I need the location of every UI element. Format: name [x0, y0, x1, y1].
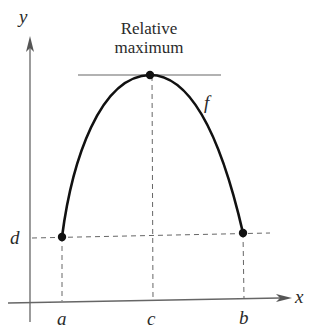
x-axis-label: x: [295, 287, 303, 306]
y-tick-d: d: [10, 228, 20, 247]
point-b-d: [239, 229, 247, 237]
y-axis: [26, 36, 34, 322]
dashed-guides: [32, 76, 270, 301]
x-tick-b: b: [239, 308, 249, 327]
y-axis-label: y: [19, 7, 27, 26]
caption-line-2: maximum: [103, 38, 195, 57]
x-tick-c: c: [147, 309, 155, 328]
x-tick-a: a: [57, 309, 67, 328]
point-a-d: [58, 233, 66, 241]
d-horizontal-guide: [32, 233, 270, 238]
x-axis: [8, 294, 292, 303]
point-relative-maximum: [146, 71, 154, 79]
c-vertical-guide: [152, 76, 153, 300]
caption-line-1: Relative: [103, 19, 195, 38]
function-label-f: f: [204, 93, 209, 112]
relative-maximum-caption: Relative maximum: [103, 19, 195, 57]
b-vertical-guide: [243, 233, 244, 299]
